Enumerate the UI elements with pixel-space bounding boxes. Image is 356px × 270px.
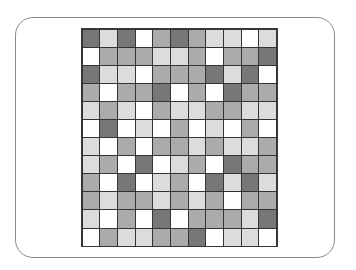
grid-cell xyxy=(258,191,277,210)
grid-cell xyxy=(205,83,224,102)
grid-cell xyxy=(170,65,189,84)
grid-cell xyxy=(99,119,118,138)
grid-cell xyxy=(117,155,136,174)
grid-cell xyxy=(205,209,224,228)
grid-cell xyxy=(258,65,277,84)
shaded-grid xyxy=(81,28,278,247)
grid-cell xyxy=(241,119,260,138)
grid-cell xyxy=(258,101,277,120)
grid-cell xyxy=(258,29,277,48)
grid-cell xyxy=(241,83,260,102)
grid-cell xyxy=(152,228,171,247)
grid-cell xyxy=(241,228,260,247)
grid-cell xyxy=(205,119,224,138)
grid-cell xyxy=(188,29,207,48)
grid-cell xyxy=(152,173,171,192)
grid-cell xyxy=(205,191,224,210)
grid-cell xyxy=(241,65,260,84)
grid-cell xyxy=(188,155,207,174)
grid-cell xyxy=(82,119,101,138)
grid-cell xyxy=(82,155,101,174)
grid-cell xyxy=(117,47,136,66)
grid-cell xyxy=(117,209,136,228)
grid-cell xyxy=(205,47,224,66)
grid-cell xyxy=(258,228,277,247)
grid-cell xyxy=(135,29,154,48)
grid-cell xyxy=(170,83,189,102)
grid-cell xyxy=(223,228,242,247)
grid-cell xyxy=(152,47,171,66)
grid-cell xyxy=(258,83,277,102)
grid-cell xyxy=(223,137,242,156)
grid-cell xyxy=(223,83,242,102)
grid-cell xyxy=(188,209,207,228)
grid-cell xyxy=(82,228,101,247)
grid-cell xyxy=(241,29,260,48)
grid-cell xyxy=(152,101,171,120)
grid-cell xyxy=(170,155,189,174)
grid-cell xyxy=(258,155,277,174)
grid-cell xyxy=(99,47,118,66)
grid-cell xyxy=(152,65,171,84)
grid-cell xyxy=(258,173,277,192)
grid-cell xyxy=(170,173,189,192)
grid-cell xyxy=(205,155,224,174)
grid-cell xyxy=(99,101,118,120)
grid-cell xyxy=(135,65,154,84)
grid-cell xyxy=(170,119,189,138)
grid-cell xyxy=(152,119,171,138)
grid-cell xyxy=(223,65,242,84)
grid-cell xyxy=(117,191,136,210)
grid-cell xyxy=(223,29,242,48)
grid-cell xyxy=(99,209,118,228)
grid-cell xyxy=(205,228,224,247)
grid-cell xyxy=(205,65,224,84)
grid-cell xyxy=(188,173,207,192)
grid-cell xyxy=(152,209,171,228)
grid-cell xyxy=(170,47,189,66)
grid-cell xyxy=(117,119,136,138)
grid-cell xyxy=(82,137,101,156)
grid-cell xyxy=(99,228,118,247)
grid-cell xyxy=(170,209,189,228)
grid-cell xyxy=(170,228,189,247)
grid-cell xyxy=(258,137,277,156)
grid-cell xyxy=(99,173,118,192)
grid-cell xyxy=(82,173,101,192)
grid-cell xyxy=(99,65,118,84)
grid-cell xyxy=(188,191,207,210)
grid-cell xyxy=(99,137,118,156)
grid-cell xyxy=(82,65,101,84)
grid-cell xyxy=(135,47,154,66)
grid-cell xyxy=(188,101,207,120)
grid-cell xyxy=(223,101,242,120)
grid-cell xyxy=(170,101,189,120)
grid-cell xyxy=(258,47,277,66)
grid-cell xyxy=(152,29,171,48)
grid-cell xyxy=(117,29,136,48)
grid-cell xyxy=(117,173,136,192)
grid-cell xyxy=(99,191,118,210)
grid-cell xyxy=(99,155,118,174)
grid-cell xyxy=(258,209,277,228)
grid-cell xyxy=(117,228,136,247)
grid-cell xyxy=(82,191,101,210)
grid-cell xyxy=(241,209,260,228)
grid-cell xyxy=(99,83,118,102)
grid-cell xyxy=(205,137,224,156)
grid-cell xyxy=(188,83,207,102)
grid-cell xyxy=(170,191,189,210)
grid-cell xyxy=(135,228,154,247)
grid-cell xyxy=(152,191,171,210)
grid-cell xyxy=(82,209,101,228)
grid-cell xyxy=(152,155,171,174)
grid-cell xyxy=(223,173,242,192)
grid-cell xyxy=(223,119,242,138)
grid-cell xyxy=(135,209,154,228)
grid-cell xyxy=(188,65,207,84)
grid-cell xyxy=(117,83,136,102)
grid-cell xyxy=(205,173,224,192)
grid-cell xyxy=(82,47,101,66)
grid-cell xyxy=(135,83,154,102)
grid-cell xyxy=(241,173,260,192)
